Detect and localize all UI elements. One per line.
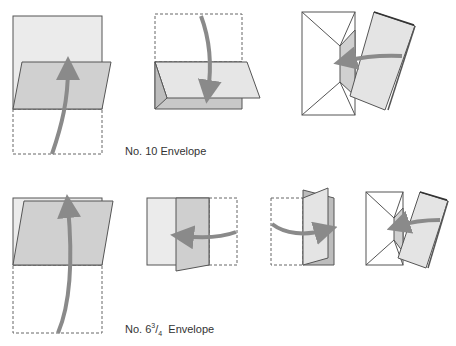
no10-caption: No. 10 Envelope [125, 145, 206, 157]
no6-step3-fold-right [271, 188, 334, 265]
folding-diagram [0, 0, 456, 346]
caption-text: No. 10 Envelope [125, 145, 206, 157]
no6-step2-fold-left [147, 198, 237, 271]
no10-step3-insert-envelope [302, 12, 415, 115]
fraction-denominator: 4 [158, 330, 162, 337]
no10-step1-fold-up [13, 16, 111, 154]
caption-prefix: No. 6 [125, 323, 151, 335]
no6-step1-fold-up [13, 198, 113, 333]
no6-step4-insert-envelope [366, 192, 448, 268]
fraction-numerator: 3 [151, 322, 155, 329]
no10-step2-fold-down [155, 14, 260, 109]
no6-caption: No. 63/4 Envelope [125, 322, 214, 337]
caption-suffix: Envelope [168, 323, 214, 335]
